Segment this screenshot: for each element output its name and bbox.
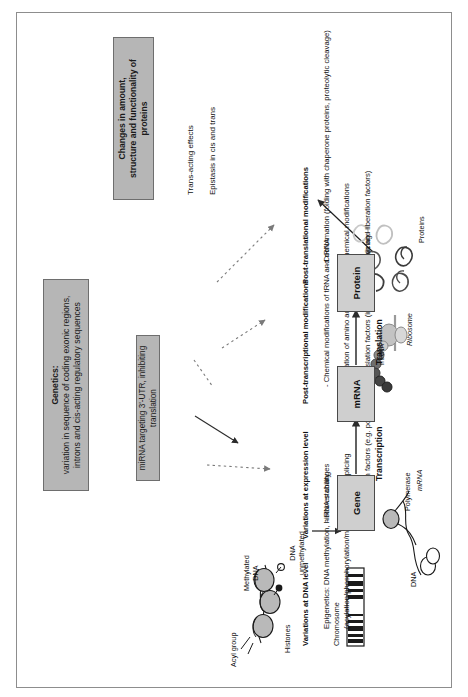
- label-mrna-translation: mRNA: [377, 343, 386, 365]
- label-dna: DNA: [409, 571, 418, 586]
- expression-level-heading: Variations at expression level: [301, 382, 311, 539]
- trans-acting-effects: Trans-acting effects: [185, 125, 196, 195]
- label-histones-visible: Histones: [283, 624, 292, 652]
- arrow-genetics-to-expression: [207, 465, 270, 469]
- figure-page: Genetics: variation in sequence of codin…: [0, 0, 468, 697]
- rotated-figure-canvas: Genetics: variation in sequence of codin…: [8, 4, 460, 694]
- post-translational-heading: Post-translational modifications: [301, 30, 311, 284]
- genetics-line2: introns and cis-acting regulatory sequen…: [72, 302, 82, 468]
- label-methylated-dna: Methylated DNA: [243, 555, 260, 591]
- flow-node-protein-label: Protein: [351, 266, 362, 299]
- arrow-mirna-left: [194, 360, 213, 387]
- label-mrna-transcription: mRNA: [415, 469, 424, 491]
- outcome-line1: Changes in amount,: [117, 77, 127, 159]
- arrow-mirna-to-post-transcriptional: [222, 320, 265, 348]
- epistasis-effects: Epistasis in cis and trans: [207, 106, 218, 194]
- flow-step-transcription: Transcription: [374, 426, 384, 480]
- flow-node-gene: Gene: [337, 475, 375, 531]
- label-chromosome: Chromosome: [332, 602, 341, 646]
- outcome-line2: structure and functionality of proteins: [128, 59, 149, 178]
- arrow-genetics-to-post-translational: [217, 225, 274, 282]
- label-proteins: Proteins: [417, 216, 426, 243]
- genetics-line1: variation in sequence of coding exonic r…: [61, 295, 71, 474]
- arrow-genetics-to-dna: [195, 416, 238, 443]
- flow-node-gene-label: Gene: [351, 491, 362, 515]
- figure-frame: Genetics: variation in sequence of codin…: [16, 12, 452, 688]
- label-methylated-dna-line2: DNA: [251, 565, 260, 580]
- mirna-box: miRNA targeting 3'-UTR, inhibiting trans…: [136, 335, 160, 481]
- label-unmethylated-dna-line2: unmethylated: [297, 531, 306, 575]
- mirna-text: miRNA targeting 3'-UTR, inhibiting trans…: [137, 336, 159, 480]
- label-polymerase: Polymerase: [403, 472, 412, 511]
- genetics-box: Genetics: variation in sequence of codin…: [43, 279, 89, 491]
- flow-node-mrna-label: mRNA: [351, 379, 362, 408]
- post-translational-bullet-0: - Conformation (folding with chaperone p…: [322, 30, 331, 267]
- genetics-heading: Genetics:: [50, 365, 60, 404]
- expression-level-bullet-0: - RNA stability: [322, 473, 331, 521]
- label-acyl-group: Acyl group: [229, 632, 238, 666]
- flow-node-protein: Protein: [337, 254, 375, 312]
- flow-node-mrna: mRNA: [337, 366, 375, 422]
- outcome-box: Changes in amount, structure and functio…: [113, 37, 154, 200]
- label-unmethylated-dna: DNA unmethylated: [289, 531, 306, 575]
- post-translational-annotation: Post-translational modifications - Confo…: [281, 30, 383, 284]
- label-ribosome: Ribosome: [405, 313, 414, 346]
